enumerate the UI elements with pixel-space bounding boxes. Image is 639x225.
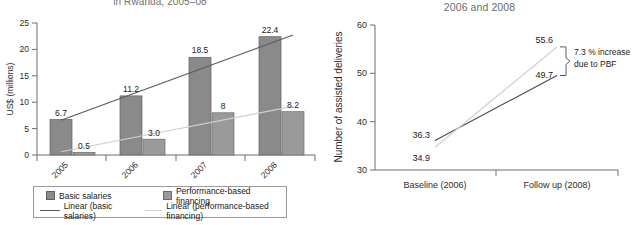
bar-basic-2005	[50, 120, 72, 155]
right-xtick-followup: Follow up (2008)	[523, 180, 590, 190]
series-line-pbf	[435, 47, 557, 147]
left-y-axis-label: US$ (millions)	[5, 62, 15, 115]
line-light-icon	[145, 210, 162, 211]
right-y-axis-label: Number of assisted deliveries	[333, 31, 344, 162]
trendline-basic-salaries	[61, 35, 293, 120]
value-label-pbf-followup: 55.6	[535, 35, 553, 45]
left-ytick-0: 0	[24, 150, 29, 160]
right-chart-panel: 2006 and 2008 60 50 40 30 Number of assi…	[320, 0, 639, 225]
right-xtick-baseline: Baseline (2006)	[403, 180, 466, 190]
right-ytick-50: 50	[357, 68, 367, 78]
bar-label-pbf-2008: 8.2	[287, 100, 299, 110]
annotation-line-1: 7.3 % increase	[574, 47, 630, 57]
right-ytick-30: 30	[357, 165, 367, 175]
right-ytick-60: 60	[357, 20, 367, 30]
value-label-control-baseline: 36.3	[412, 130, 430, 140]
right-chart-plot: 60 50 40 30 Number of assisted deliverie…	[320, 0, 639, 225]
bar-pbf-2005	[73, 152, 95, 155]
left-x-ticks	[37, 155, 315, 161]
bar-basic-2008	[259, 37, 281, 155]
left-ytick-20: 20	[20, 44, 30, 54]
bar-label-pbf-2006: 3.0	[148, 128, 160, 138]
legend-item-linear-basic: Linear (basic salaries)	[40, 201, 145, 221]
bar-pbf-2006	[143, 139, 165, 155]
annotation-line-2: due to PBF	[574, 59, 617, 69]
series-line-control	[435, 76, 557, 141]
swatch-light-icon	[163, 191, 172, 200]
bar-label-basic-2007: 18.5	[192, 45, 209, 55]
bar-pbf-2008	[282, 112, 304, 155]
bar-label-basic-2006: 11.2	[123, 84, 139, 94]
left-y-ticks	[32, 23, 37, 155]
bar-label-basic-2008: 22.4	[262, 25, 279, 35]
value-label-pbf-baseline: 34.9	[412, 153, 430, 163]
bar-label-pbf-2005: 0.5	[78, 141, 90, 151]
trendline-pbf	[61, 106, 293, 151]
legend-item-linear-pbf: Linear (performance-based financing)	[145, 201, 286, 221]
right-ytick-40: 40	[357, 117, 367, 127]
left-xtick-2005: 2005	[50, 159, 71, 180]
line-dark-icon	[40, 210, 60, 211]
swatch-dark-icon	[46, 191, 55, 200]
left-chart-panel: in Rwanda, 2005–08 25 20 15 10 5 0 US$ (	[0, 0, 320, 225]
legend-label-basic-salaries: Basic salaries	[59, 191, 111, 201]
right-y-ticks	[370, 25, 375, 170]
left-xtick-2006: 2006	[120, 159, 141, 180]
left-chart-legend: Basic salaries Performance-based financi…	[33, 186, 287, 218]
legend-item-basic-salaries: Basic salaries	[46, 191, 163, 201]
bar-label-pbf-2007: 8	[221, 101, 226, 111]
bar-label-basic-2005: 6.7	[55, 108, 67, 118]
left-xtick-2007: 2007	[189, 159, 210, 180]
value-label-control-followup: 49.7	[535, 70, 553, 80]
legend-label-linear-pbf: Linear (performance-based financing)	[166, 201, 286, 221]
left-ytick-15: 15	[20, 71, 30, 81]
figure-container: in Rwanda, 2005–08 25 20 15 10 5 0 US$ (	[0, 0, 639, 225]
legend-label-linear-basic: Linear (basic salaries)	[64, 201, 146, 221]
right-x-ticks	[496, 170, 618, 176]
bar-basic-2006	[120, 96, 142, 155]
annotation-bracket-icon	[560, 47, 570, 76]
left-xtick-2008: 2008	[259, 159, 280, 180]
left-ytick-5: 5	[24, 124, 29, 134]
left-ytick-10: 10	[20, 97, 30, 107]
left-ytick-25: 25	[20, 18, 30, 28]
